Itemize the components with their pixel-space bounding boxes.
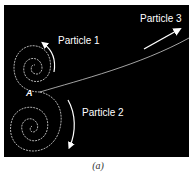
particle-2-label: Particle 2 [82,107,124,118]
particle-3-track [40,38,189,92]
particle-3-label: Particle 3 [140,13,182,24]
particle-2-track [11,92,62,151]
particle-1-track [14,46,50,92]
particle-2-arrow [68,100,74,146]
particle-tracks [0,0,196,174]
particle-1-label: Particle 1 [58,35,100,46]
point-a-label: A [26,88,33,98]
figure-caption: (a) [0,160,196,171]
